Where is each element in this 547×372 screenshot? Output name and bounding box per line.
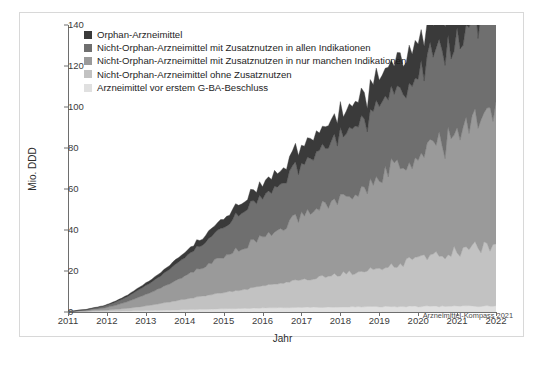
x-axis-tick-label: 2017 — [291, 316, 312, 326]
legend-item: Nicht-Orphan-Arzneimittel ohne Zusatznut… — [84, 69, 406, 81]
x-axis-tick-label: 2018 — [330, 316, 351, 326]
chart-figure: Mio. DDD 020406080100120140 201120122013… — [19, 12, 524, 337]
legend-swatch-icon — [84, 84, 92, 92]
x-axis-tick-label: 2016 — [252, 316, 273, 326]
legend-item: Nicht-Orphan-Arzneimittel mit Zusatznutz… — [84, 42, 406, 54]
x-axis-tick-label: 2013 — [135, 316, 156, 326]
legend-item: Nicht-Orphan-Arzneimittel mit Zusatznutz… — [84, 55, 406, 67]
x-axis-tick-label: 2014 — [174, 316, 195, 326]
x-axis-title: Jahr — [68, 333, 497, 344]
y-axis-title-container: Mio. DDD — [24, 25, 40, 312]
legend-item-label: Nicht-Orphan-Arzneimittel ohne Zusatznut… — [97, 70, 292, 80]
x-axis-tick-label: 2019 — [369, 316, 390, 326]
chart-attribution: Arzneimittel-Kompass 2021 — [423, 311, 513, 320]
legend-item-label: Nicht-Orphan-Arzneimittel mit Zusatznutz… — [97, 56, 406, 66]
legend-swatch-icon — [84, 70, 92, 78]
legend-item-label: Orphan-Arzneimittel — [97, 30, 182, 40]
x-axis-tick-label: 2011 — [58, 316, 78, 326]
chart-legend: Orphan-ArzneimittelNicht-Orphan-Arzneimi… — [84, 29, 406, 95]
legend-swatch-icon — [84, 57, 92, 65]
caption-text — [19, 352, 524, 360]
legend-item-label: Arzneimittel vor erstem G-BA-Beschluss — [97, 83, 268, 93]
legend-item: Arzneimittel vor erstem G-BA-Beschluss — [84, 82, 406, 94]
legend-item-label: Nicht-Orphan-Arzneimittel mit Zusatznutz… — [97, 43, 371, 53]
legend-swatch-icon — [84, 31, 92, 39]
caption-strip — [19, 352, 524, 366]
legend-item: Orphan-Arzneimittel — [84, 29, 406, 41]
x-axis-tick-label: 2015 — [213, 316, 234, 326]
x-axis-tick-label: 2012 — [96, 316, 117, 326]
legend-swatch-icon — [84, 44, 92, 52]
y-axis-title: Mio. DDD — [27, 147, 38, 190]
